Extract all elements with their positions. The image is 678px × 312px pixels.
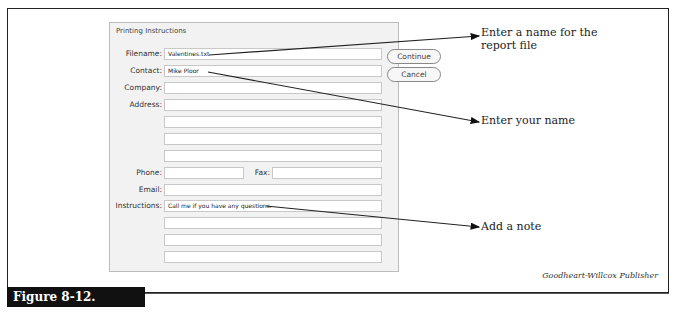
publisher-credit: Goodheart-Willcox Publisher [542, 271, 658, 280]
figure-label: Figure 8-12. [7, 287, 145, 307]
callout-arrows [0, 0, 678, 312]
